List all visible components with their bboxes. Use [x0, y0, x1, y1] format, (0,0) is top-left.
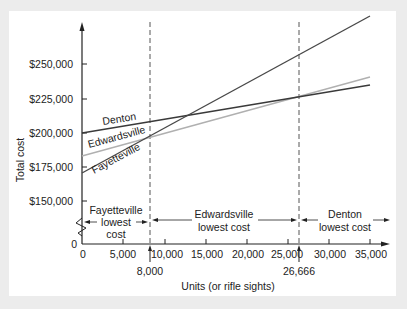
axis-break-icon: [76, 218, 86, 236]
x-axis-title: Units (or rifle sights): [181, 280, 274, 292]
arrow-left-icon: [301, 218, 307, 222]
region-label: cost: [106, 228, 125, 240]
region-label: lowest cost: [198, 221, 250, 233]
y-tick-label: $250,000: [29, 58, 73, 70]
arrow-right-icon: [291, 218, 297, 222]
x-tick-label: 10,000: [151, 248, 183, 260]
x-tick-label: 35,000: [355, 248, 387, 260]
x-tick-label: 20,000: [232, 248, 264, 260]
arrow-left-icon: [84, 220, 90, 224]
arrow-right-icon: [384, 218, 390, 222]
x-tick-label: 15,000: [191, 248, 223, 260]
break-even-chart: $250,000 $225,000 $200,000 $175,000 $150…: [0, 0, 407, 309]
y-tick-label: 0: [71, 238, 77, 250]
x-ticks: [123, 239, 370, 244]
region-label: Edwardsville: [195, 208, 254, 220]
y-tick-label: $225,000: [29, 93, 73, 105]
arrow-left-icon: [152, 218, 158, 222]
breakeven-label: 26,666: [283, 265, 315, 277]
y-axis-arrow-icon: [80, 22, 85, 31]
y-tick-label: $175,000: [29, 161, 73, 173]
y-axis-title: Total cost: [14, 138, 26, 182]
y-tick-label: $150,000: [29, 195, 73, 207]
x-tick-label: 0: [80, 248, 86, 260]
arrow-right-icon: [142, 220, 148, 224]
breakeven-label: 8,000: [137, 265, 163, 277]
denton-line: [82, 85, 370, 133]
region-label: Fayetteville: [89, 204, 142, 216]
x-axis-arrow-icon: [381, 242, 390, 247]
y-tick-label: $200,000: [29, 127, 73, 139]
region-label: lowest: [101, 216, 131, 228]
region-label: Denton: [328, 208, 362, 220]
x-tick-label: 30,000: [314, 248, 346, 260]
region-label: lowest cost: [319, 221, 371, 233]
x-tick-label: 5,000: [110, 248, 136, 260]
